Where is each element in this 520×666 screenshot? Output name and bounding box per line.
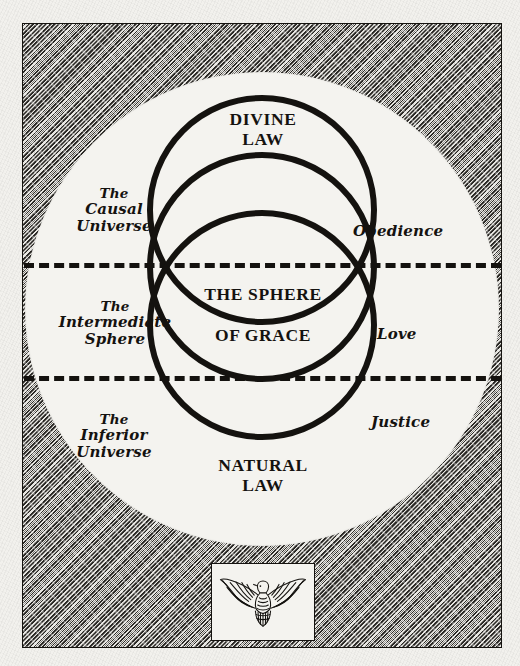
dove-icon	[217, 570, 309, 634]
label-divine-law: DIVINE LAW	[173, 110, 353, 150]
label-natural-law-line1: NATURAL	[173, 456, 353, 476]
label-causal-universe-line1: The	[51, 186, 177, 201]
label-love: Love	[377, 326, 499, 343]
label-causal-universe-line2: Causal	[51, 201, 177, 218]
label-obedience: Obedience	[353, 223, 499, 240]
label-causal-universe-line3: Universe	[51, 218, 177, 235]
label-inferior-universe-line3: Universe	[51, 444, 177, 461]
label-intermediate-sphere-line2: Intermediate	[45, 314, 185, 331]
label-of-grace: OF GRACE	[173, 326, 353, 346]
label-divine-law-line2: LAW	[173, 130, 353, 150]
label-intermediate-sphere: The Intermediate Sphere	[45, 299, 185, 349]
diagram-frame: DIVINE LAW THE SPHERE OF GRACE NATURAL L…	[22, 23, 502, 648]
label-inferior-universe-line1: The	[51, 412, 177, 427]
label-inferior-universe: The Inferior Universe	[51, 412, 177, 462]
engraved-plate: DIVINE LAW THE SPHERE OF GRACE NATURAL L…	[0, 0, 520, 666]
label-natural-law: NATURAL LAW	[173, 456, 353, 496]
label-intermediate-sphere-line3: Sphere	[45, 331, 185, 348]
label-intermediate-sphere-line1: The	[45, 299, 185, 314]
label-justice: Justice	[371, 414, 499, 431]
label-the-sphere: THE SPHERE	[173, 285, 353, 305]
label-inferior-universe-line2: Inferior	[51, 427, 177, 444]
label-natural-law-line2: LAW	[173, 476, 353, 496]
label-the-sphere-line1: THE SPHERE	[173, 285, 353, 305]
label-divine-law-line1: DIVINE	[173, 110, 353, 130]
dove-emblem-box	[211, 563, 315, 641]
label-causal-universe: The Causal Universe	[51, 186, 177, 236]
label-of-grace-line1: OF GRACE	[173, 326, 353, 346]
